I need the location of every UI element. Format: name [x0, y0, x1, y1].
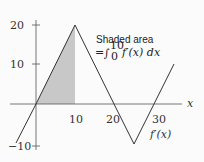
- xtick-10: 10: [69, 113, 83, 126]
- equals-sign: =: [95, 46, 104, 59]
- xtick-20: 20: [106, 113, 120, 126]
- integrand: f′(x) dx: [121, 46, 161, 59]
- ytick-10: 10: [10, 58, 24, 71]
- chart: 20 10 −10 10 20 30 x Shaded area = ∫ 10 …: [0, 0, 204, 162]
- integral-lower: 0: [111, 50, 118, 63]
- x-axis-label: x: [187, 97, 194, 110]
- curve-label: f′(x): [149, 128, 171, 141]
- ytick-20: 20: [10, 19, 24, 32]
- shaded-area-title: Shaded area: [96, 34, 154, 45]
- ytick-neg10: −10: [8, 140, 31, 153]
- xtick-30: 30: [152, 113, 166, 126]
